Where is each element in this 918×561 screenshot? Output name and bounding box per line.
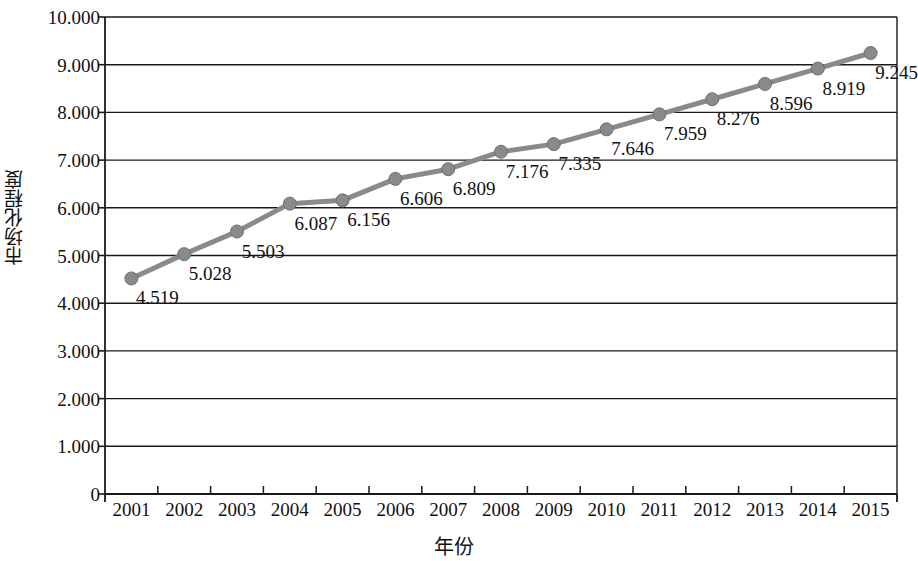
- data-point-marker: [600, 123, 613, 136]
- data-point-label: 8.919: [822, 79, 865, 98]
- x-axis-tick-label: 2005: [324, 500, 362, 519]
- data-point-marker: [125, 272, 138, 285]
- data-point-marker: [231, 225, 244, 238]
- data-point-label: 6.606: [400, 189, 443, 208]
- data-point-marker: [547, 138, 560, 151]
- data-point-label: 6.087: [294, 214, 337, 233]
- data-point-marker: [706, 93, 719, 106]
- x-axis-tick-label: 2009: [535, 500, 573, 519]
- data-point-marker: [389, 172, 402, 185]
- data-point-label: 6.809: [453, 179, 496, 198]
- series-markers: [125, 47, 877, 285]
- x-axis-tick-label: 2015: [852, 500, 890, 519]
- data-point-label: 7.646: [611, 139, 654, 158]
- x-axis-tick-label: 2013: [746, 500, 784, 519]
- data-point-label: 8.596: [770, 94, 813, 113]
- data-point-marker: [178, 248, 191, 261]
- data-point-marker: [759, 77, 772, 90]
- data-point-marker: [811, 62, 824, 75]
- data-point-label: 9.245: [875, 63, 918, 82]
- x-axis-tick-label: 2007: [429, 500, 467, 519]
- data-point-marker: [336, 194, 349, 207]
- x-axis-tick-label: 2001: [112, 500, 150, 519]
- x-axis-tick-label: 2002: [165, 500, 203, 519]
- x-axis-tick-label: 2003: [218, 500, 256, 519]
- data-point-marker: [442, 163, 455, 176]
- x-axis-tick-label: 2008: [482, 500, 520, 519]
- x-axis-tick-label: 2011: [641, 500, 678, 519]
- x-axis-tick-label: 2014: [799, 500, 837, 519]
- data-point-marker: [283, 197, 296, 210]
- data-point-label: 5.028: [189, 264, 232, 283]
- data-point-marker: [495, 145, 508, 158]
- data-point-label: 7.335: [558, 154, 601, 173]
- data-point-label: 7.176: [506, 162, 549, 181]
- x-axis-tick-label: 2004: [271, 500, 309, 519]
- x-axis-tick-label: 2006: [376, 500, 414, 519]
- data-point-label: 5.503: [242, 242, 285, 261]
- data-point-label: 4.519: [136, 288, 179, 307]
- x-axis-tick-label: 2010: [588, 500, 626, 519]
- data-point-marker: [864, 47, 877, 60]
- data-point-label: 6.156: [347, 210, 390, 229]
- data-point-marker: [653, 108, 666, 121]
- data-point-label: 8.276: [717, 109, 760, 128]
- x-axis-title: 年份: [0, 531, 908, 560]
- x-axis-tick-label: 2012: [693, 500, 731, 519]
- data-point-label: 7.959: [664, 124, 707, 143]
